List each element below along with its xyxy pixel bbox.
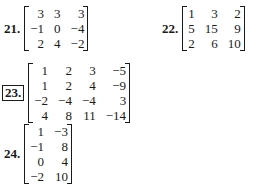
matrix-row: 04 [28,154,68,169]
matrix-entry: 2 [28,36,44,51]
matrix-row: −10−4 [28,21,84,36]
matrix-entry: −9 [96,78,126,93]
matrix-entry: −14 [96,108,126,123]
matrix-entry: 2 [186,36,195,51]
problem-24: 24. 1−3−1804−210 [4,124,72,184]
matrix-entry: 3 [61,6,85,21]
matrix-entry: −2 [28,169,44,184]
matrix-entry: 2 [48,63,72,78]
matrix-entry: 8 [48,108,72,123]
matrix-entry: −2 [32,93,48,108]
matrix-entries: 333−10−424−2 [28,6,84,51]
matrix-entry: −1 [28,21,44,36]
matrix-entry: 4 [44,154,68,169]
problem-23: 23. 123−5124−9−2−4−434811−14 [2,63,130,123]
matrix-entry: 15 [195,21,218,36]
matrix-row: 1−3 [28,124,68,139]
matrix-row: 123−5 [32,63,126,78]
matrix-entries: 1−3−1804−210 [28,124,68,184]
matrix-entry: 8 [44,139,68,154]
matrix-entry: 11 [72,108,96,123]
matrix-row: 24−2 [28,36,84,51]
matrix-entry: −4 [72,93,96,108]
problem-number: 24. [4,146,20,162]
matrix-entries: 13251592610 [186,6,241,51]
matrix-row: 5159 [186,21,241,36]
problem-21: 21. 333−10−424−2 [4,6,88,51]
matrix-entry: 0 [28,154,44,169]
matrix-row: 132 [186,6,241,21]
matrix-entry: 3 [96,93,126,108]
problem-number: 23. [2,85,24,101]
matrix-row: 4811−14 [32,108,126,123]
matrix-row: 333 [28,6,84,21]
matrix-entry: 9 [218,21,241,36]
matrix-entry: 10 [44,169,68,184]
matrix-entry: −3 [44,124,68,139]
matrix-row: −18 [28,139,68,154]
matrix-entry: −2 [61,36,85,51]
matrix-row: −210 [28,169,68,184]
matrix-entry: 1 [28,124,44,139]
matrix-entries: 123−5124−9−2−4−434811−14 [32,63,126,123]
matrix-entry: 4 [44,36,61,51]
matrix-row: −2−4−43 [32,93,126,108]
matrix-row: 124−9 [32,78,126,93]
matrix: 1−3−1804−210 [24,124,72,184]
matrix-row: 2610 [186,36,241,51]
matrix-entry: 4 [32,108,48,123]
matrix-entry: 2 [48,78,72,93]
matrix-entry: −4 [61,21,85,36]
matrix-entry: 1 [186,6,195,21]
matrix-entry: 3 [28,6,44,21]
matrix: 333−10−424−2 [24,6,88,51]
matrix-entry: 10 [218,36,241,51]
matrix-entry: 2 [218,6,241,21]
problem-number: 21. [4,21,20,37]
matrix-entry: 3 [44,6,61,21]
problem-number: 22. [162,21,178,37]
matrix-entry: 1 [32,63,48,78]
matrix-entry: 4 [72,78,96,93]
matrix-entry: 3 [195,6,218,21]
problem-22: 22. 13251592610 [162,6,245,51]
matrix: 123−5124−9−2−4−434811−14 [28,63,130,123]
matrix-entry: 3 [72,63,96,78]
matrix-entry: 6 [195,36,218,51]
matrix-entry: −4 [48,93,72,108]
matrix-entry: 0 [44,21,61,36]
matrix-entry: −5 [96,63,126,78]
matrix-entry: 1 [32,78,48,93]
matrix-entry: 5 [186,21,195,36]
matrix: 13251592610 [182,6,245,51]
matrix-entry: −1 [28,139,44,154]
